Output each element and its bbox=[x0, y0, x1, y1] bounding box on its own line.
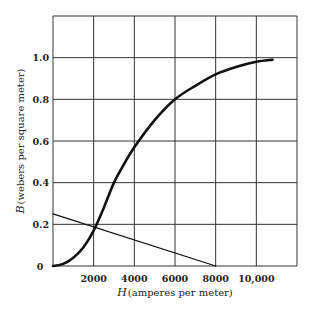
y-tick-label: 0.6 bbox=[32, 136, 49, 147]
x-axis-label: H(amperes per meter) bbox=[116, 286, 233, 299]
bh-curve-line bbox=[53, 60, 273, 266]
x-axis-ticks: 0200040006000800010,000 bbox=[37, 261, 275, 285]
x-tick-label: 4000 bbox=[121, 273, 148, 284]
x-tick-label: 6000 bbox=[162, 273, 189, 284]
data-series bbox=[53, 60, 273, 266]
y-tick-label: 0.2 bbox=[32, 219, 49, 230]
x-tick-label: 0 bbox=[37, 261, 44, 272]
y-tick-label: 1.0 bbox=[32, 52, 49, 63]
bh-curve-chart: 0200040006000800010,000 0.20.40.60.81.0 … bbox=[0, 0, 318, 312]
grid-lines bbox=[53, 16, 297, 266]
y-tick-label: 0.8 bbox=[32, 94, 49, 105]
y-axis-ticks: 0.20.40.60.81.0 bbox=[32, 52, 49, 230]
y-tick-label: 0.4 bbox=[32, 177, 49, 188]
x-tick-label: 10,000 bbox=[238, 273, 275, 285]
y-axis-label: B(webers per square meter) bbox=[14, 68, 27, 214]
x-tick-label: 2000 bbox=[80, 273, 107, 284]
x-tick-label: 8000 bbox=[202, 273, 229, 284]
